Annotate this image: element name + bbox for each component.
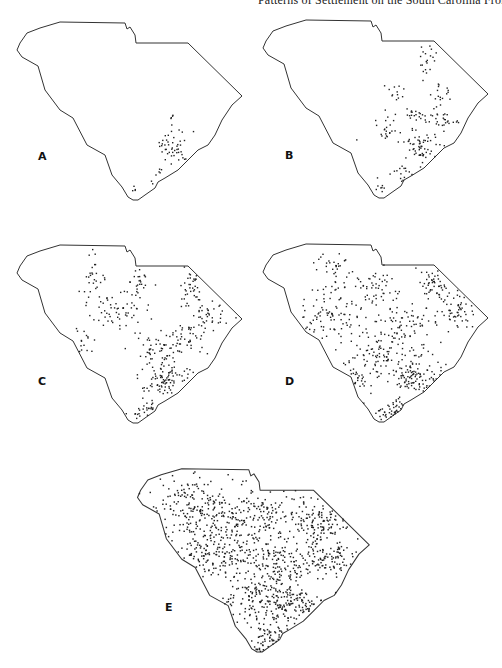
map-panel-d: [263, 244, 488, 422]
panel-label-e: E: [165, 601, 173, 614]
state-outline: [17, 22, 242, 200]
state-outline: [263, 244, 488, 422]
settlement-dots: [302, 253, 474, 420]
map-panel-e: [138, 469, 370, 652]
panel-label-a: A: [38, 150, 47, 163]
settlement-dots: [76, 249, 237, 419]
map-panel-b: [263, 20, 488, 198]
panel-label-b: B: [285, 149, 293, 162]
state-outline: [138, 469, 370, 652]
map-panel-a: [17, 22, 242, 200]
settlement-dots: [139, 471, 359, 652]
map-panel-c: [17, 245, 242, 423]
state-outline: [17, 245, 242, 423]
settlement-dots: [356, 45, 459, 192]
state-outline: [263, 20, 488, 198]
settlement-dots: [132, 115, 194, 192]
panel-label-c: C: [38, 375, 46, 388]
panel-label-d: D: [285, 375, 294, 388]
settlement-maps-figure: ABCDE: [0, 0, 502, 668]
